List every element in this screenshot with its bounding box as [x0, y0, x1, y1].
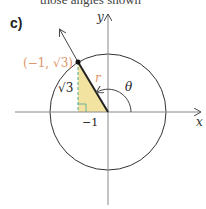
- angle-label: θ: [125, 80, 133, 94]
- opposite-label: √3: [58, 81, 73, 95]
- point-label: (−1, √3): [23, 56, 73, 70]
- x-axis-label: x: [196, 115, 203, 129]
- unit-circle-diagram: (−1, √3) r θ √3 −1 x y: [0, 0, 206, 209]
- y-axis-label: y: [96, 10, 104, 24]
- adjacent-label: −1: [82, 116, 98, 129]
- point-marker: [76, 60, 81, 65]
- radius-label: r: [95, 71, 102, 85]
